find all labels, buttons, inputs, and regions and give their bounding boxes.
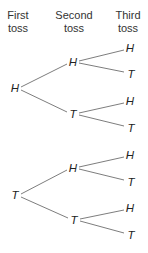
branch-H-T — [21, 90, 67, 112]
node-l1-0: H — [11, 82, 19, 94]
node-l3-4: H — [126, 149, 134, 161]
branch-TT-H — [80, 210, 124, 219]
branch-T-T — [21, 197, 68, 218]
branch-HH-T — [79, 63, 124, 72]
node-l3-6: H — [126, 202, 134, 214]
node-l3-7: T — [127, 229, 134, 241]
branch-HT-H — [79, 103, 124, 113]
branch-TT-T — [80, 221, 124, 233]
node-l2-2: H — [69, 162, 77, 174]
node-l1-1: T — [11, 189, 18, 201]
node-l2-0: H — [69, 56, 77, 68]
node-l3-2: H — [126, 95, 134, 107]
node-l3-1: T — [127, 68, 134, 80]
branch-TH-T — [79, 169, 124, 180]
node-l3-3: T — [127, 122, 134, 134]
node-l2-1: T — [69, 108, 76, 120]
node-l2-3: T — [70, 214, 77, 226]
node-l3-0: H — [126, 42, 134, 54]
branch-HT-T — [79, 115, 124, 126]
branch-H-H — [21, 64, 67, 87]
branch-TH-H — [79, 157, 124, 167]
node-l3-5: T — [127, 176, 134, 188]
branch-HH-H — [79, 50, 124, 61]
branch-T-H — [21, 170, 67, 194]
